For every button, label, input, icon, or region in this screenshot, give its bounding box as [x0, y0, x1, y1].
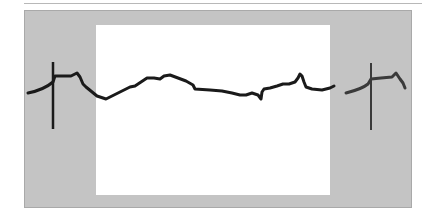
signal-line-main [28, 73, 334, 99]
signal-line-right [346, 73, 405, 93]
waveform-trace [0, 0, 431, 214]
